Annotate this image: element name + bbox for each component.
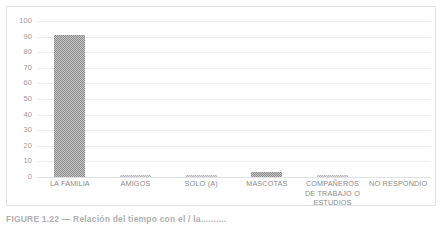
bar[interactable] bbox=[120, 175, 151, 177]
gridline bbox=[37, 177, 431, 178]
bar-slot bbox=[365, 21, 431, 177]
bar-slot bbox=[37, 21, 103, 177]
chart-frame: 100 90 80 70 60 50 40 30 20 10 0 LA FAMI… bbox=[6, 6, 436, 206]
y-tick-label: 80 bbox=[23, 48, 32, 56]
x-axis-category-label: SOLO (A) bbox=[168, 179, 234, 189]
x-axis-category-label: MASCOTAS bbox=[234, 179, 300, 189]
figure-caption-text: FIGURE 1.22 — Relación del tiempo con el… bbox=[6, 214, 436, 224]
x-axis-category-label: AMIGOS bbox=[103, 179, 169, 189]
y-tick-label: 60 bbox=[23, 79, 32, 87]
x-axis-category-label: NO RESPONDIO bbox=[365, 179, 431, 189]
bar[interactable] bbox=[251, 172, 282, 177]
y-tick-label: 10 bbox=[23, 157, 32, 165]
y-tick-label: 30 bbox=[23, 126, 32, 134]
x-axis-labels: LA FAMILIAAMIGOSSOLO (A)MASCOTASCOMPAÑER… bbox=[37, 179, 431, 213]
bar-slot bbox=[168, 21, 234, 177]
y-tick-label: 70 bbox=[23, 64, 32, 72]
y-tick-label: 40 bbox=[23, 111, 32, 119]
x-axis-category-label: LA FAMILIA bbox=[37, 179, 103, 189]
y-axis-labels: 100 90 80 70 60 50 40 30 20 10 0 bbox=[7, 21, 35, 177]
bar[interactable] bbox=[54, 35, 85, 177]
y-tick-label: 50 bbox=[23, 95, 32, 103]
plot-area bbox=[37, 21, 431, 177]
figure-caption: FIGURE 1.22 — Relación del tiempo con el… bbox=[6, 214, 436, 225]
bar[interactable] bbox=[186, 175, 217, 177]
x-axis-category-label: COMPAÑEROS DE TRABAJO O ESTUDIOS bbox=[300, 179, 366, 208]
bar-series bbox=[37, 21, 431, 177]
chart-page: 100 90 80 70 60 50 40 30 20 10 0 LA FAMI… bbox=[0, 0, 443, 225]
y-tick-label: 90 bbox=[23, 33, 32, 41]
y-tick-label: 0 bbox=[28, 173, 32, 181]
bar-slot bbox=[103, 21, 169, 177]
bar[interactable] bbox=[317, 175, 348, 177]
bar-slot bbox=[300, 21, 366, 177]
y-tick-label: 20 bbox=[23, 142, 32, 150]
y-tick-label: 100 bbox=[19, 17, 32, 25]
bar-slot bbox=[234, 21, 300, 177]
